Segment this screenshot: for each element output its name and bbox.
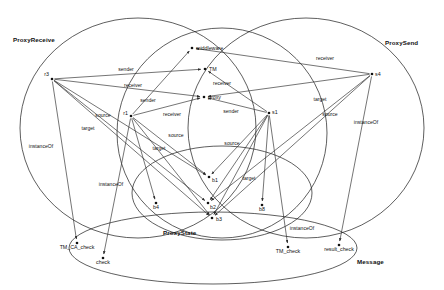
node-label-tm_ca_check: TM_CA_check [60,244,95,250]
class-ellipse-proxyreceive [20,18,256,238]
edge-label-e7: receiver [163,111,181,117]
node-dot-b3[interactable] [211,217,214,220]
class-ellipse-message [69,212,357,284]
edge-s1-to-b3 [214,115,268,214]
edge-label-e5: instanceOf [29,143,54,149]
class-ellipse-proxysend [188,18,424,238]
edge-s1-to-tm_check [269,115,287,243]
edge-s4-to-b2 [211,76,370,201]
class-label-proxystate: ProxyState [163,229,197,236]
node-dot-middleware[interactable] [191,47,194,50]
node-label-middleware: middleware [196,45,223,51]
edge-label-e15: instanceOf [354,119,379,125]
node-dot-r3[interactable] [51,78,54,81]
edge-label-e1: sender [118,66,134,72]
edge-label-e17: sender [223,108,239,114]
edge-r3-to-tm_ca_check [52,81,76,239]
node-dot-s1[interactable] [268,112,271,115]
edge-label-e10: instanceOf [99,181,124,187]
edge-label-e2: receiver [124,82,142,88]
node-label-proxy: proxy [208,94,221,100]
edge-label-e4: target [81,125,95,131]
edge-r1-to-b1 [133,118,206,175]
edge-s1-to-b1 [212,115,268,174]
node-label-r3: r3 [44,71,49,77]
diagram-canvas: senderreceiversourcetargetinstanceOfsend… [0,0,444,290]
edge-label-e16: receiver [213,80,231,86]
edge-label-e13: target [313,96,327,102]
class-ellipse-middle_ring [117,28,327,238]
diagram-root: senderreceiversourcetargetinstanceOfsend… [0,0,444,290]
edge-label-e18: source [224,140,239,146]
node-dot-b1[interactable] [208,176,211,179]
edge-r3-to-b3 [54,81,209,216]
edge-label-e22: instanceOf [290,225,315,231]
node-label-s1: s1 [272,109,278,115]
node-dot-s4[interactable] [371,73,374,76]
node-label-b1: b1 [212,177,218,183]
node-dot-b2[interactable] [207,202,210,205]
edge-s4-to-proxy [208,74,370,96]
node-label-r1: r1 [123,110,128,116]
class-label-proxyreceive: ProxyReceive [13,36,55,43]
edge-label-e14: source [322,111,337,117]
edge-s1-to-b8 [262,115,269,201]
edge-label-e11: receiver [316,55,334,61]
node-label-tm: TM [209,66,217,72]
edge-label-e6: sender [140,97,156,103]
edge-s1-to-b2 [210,115,267,200]
node-dot-r1[interactable] [130,115,133,118]
node-label-result_check: result_check [324,246,354,252]
edge-s4-to-result_check [340,76,372,241]
node-label-b3: b3 [216,216,222,222]
node-label-check: check [96,259,110,265]
node-dot-proxy[interactable] [203,96,206,99]
node-layer: r3r1s4s1middlewareTMproxyb1b2b3b4b8TM_CA… [44,45,380,265]
edge-s4-to-middleware [196,49,370,74]
edge-label-e19: target [242,175,256,181]
class-label-proxysend: ProxySend [385,39,418,46]
node-dot-tm[interactable] [204,68,207,71]
edge-label-e8: source [168,132,183,138]
node-label-b2: b2 [210,204,216,210]
node-label-tm_check: TM_check [276,248,301,254]
edge-r1-to-b4 [132,118,155,199]
node-label-b8: b8 [259,206,265,212]
edge-layer: senderreceiversourcetargetinstanceOfsend… [29,49,379,255]
node-label-b4: b4 [153,204,159,210]
class-label-message: Message [357,258,384,265]
node-label-s4: s4 [375,71,381,77]
